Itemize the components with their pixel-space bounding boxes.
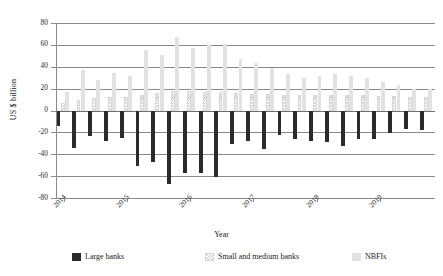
y-axis-tick-label: 80 bbox=[22, 19, 48, 27]
bar-large bbox=[246, 111, 250, 142]
bar-group bbox=[230, 23, 246, 198]
bar-nbfi bbox=[349, 76, 353, 111]
bar-nbfi bbox=[318, 76, 322, 111]
bar-nbfi bbox=[381, 82, 385, 110]
bar-nbfi bbox=[397, 85, 401, 110]
y-axis-tick-label: 60 bbox=[22, 40, 48, 48]
bar-nbfi bbox=[239, 59, 243, 110]
bar-group bbox=[372, 23, 388, 198]
bar-group bbox=[340, 23, 356, 198]
bar-nbfi bbox=[81, 70, 85, 110]
bar-large bbox=[214, 111, 218, 178]
bar-group bbox=[403, 23, 419, 198]
bar-large bbox=[372, 111, 376, 139]
bar-group bbox=[261, 23, 277, 198]
bar-large bbox=[341, 111, 345, 146]
bar-nbfi bbox=[223, 44, 227, 111]
bar-large bbox=[167, 111, 171, 184]
legend-item-nbfi[interactable]: NBFIs bbox=[352, 252, 386, 261]
bar-large bbox=[357, 111, 361, 139]
bar-nbfi bbox=[65, 92, 69, 111]
legend-swatch-nbfi-icon bbox=[352, 253, 361, 261]
chart-container: US $ billion 806040200-20-40-60-80 20142… bbox=[0, 0, 443, 276]
bar-large bbox=[278, 111, 282, 135]
y-axis-tick-label: 20 bbox=[22, 84, 48, 92]
chart-legend: Large banksSmall and medium banksNBFIs bbox=[0, 252, 443, 266]
bar-nbfi bbox=[412, 89, 416, 111]
bar-group bbox=[103, 23, 119, 198]
bar-group bbox=[167, 23, 183, 198]
legend-label: NBFIs bbox=[365, 252, 386, 261]
y-axis-tick-label: -40 bbox=[22, 150, 48, 158]
bar-large bbox=[230, 111, 234, 145]
bar-nbfi bbox=[254, 63, 258, 110]
x-axis-title: Year bbox=[0, 230, 443, 239]
bar-group bbox=[246, 23, 262, 198]
bar-large bbox=[104, 111, 108, 142]
bar-group bbox=[72, 23, 88, 198]
bar-large bbox=[293, 111, 297, 139]
bar-large bbox=[136, 111, 140, 167]
y-axis-tick-label: 40 bbox=[22, 62, 48, 70]
bar-large bbox=[88, 111, 92, 136]
bar-large bbox=[325, 111, 329, 143]
bar-large bbox=[199, 111, 203, 173]
bar-large bbox=[388, 111, 392, 134]
bar-nbfi bbox=[175, 37, 179, 110]
legend-item-smb[interactable]: Small and medium banks bbox=[205, 252, 299, 261]
bar-group bbox=[88, 23, 104, 198]
bar-group bbox=[277, 23, 293, 198]
bar-nbfi bbox=[365, 78, 369, 111]
bar-group bbox=[135, 23, 151, 198]
bar-nbfi bbox=[112, 73, 116, 110]
bar-group bbox=[309, 23, 325, 198]
legend-label: Large banks bbox=[85, 252, 124, 261]
y-axis-tick-label: -80 bbox=[22, 194, 48, 202]
bar-nbfi bbox=[160, 55, 164, 111]
x-axis-tick-label: 2014 bbox=[51, 193, 68, 210]
bar-groups bbox=[56, 23, 435, 198]
bar-group bbox=[182, 23, 198, 198]
bar-nbfi bbox=[207, 45, 211, 111]
bar-nbfi bbox=[428, 89, 432, 111]
legend-item-large[interactable]: Large banks bbox=[72, 252, 124, 261]
y-axis-title: US $ billion bbox=[9, 55, 18, 145]
bar-large bbox=[72, 111, 76, 148]
y-axis-tick-label: -20 bbox=[22, 128, 48, 136]
bar-group bbox=[324, 23, 340, 198]
legend-label: Small and medium banks bbox=[218, 252, 299, 261]
bar-nbfi bbox=[144, 50, 148, 110]
bar-large bbox=[262, 111, 266, 149]
bar-group bbox=[214, 23, 230, 198]
bar-nbfi bbox=[270, 68, 274, 111]
bar-nbfi bbox=[191, 48, 195, 110]
bar-large bbox=[404, 111, 408, 130]
bar-group bbox=[356, 23, 372, 198]
bar-group bbox=[198, 23, 214, 198]
bar-group bbox=[419, 23, 435, 198]
bar-nbfi bbox=[128, 76, 132, 111]
bar-large bbox=[309, 111, 313, 142]
legend-swatch-smb-icon bbox=[205, 253, 214, 261]
y-axis-tick-label: -60 bbox=[22, 172, 48, 180]
bar-nbfi bbox=[302, 78, 306, 111]
bar-large bbox=[57, 111, 61, 126]
bar-group bbox=[151, 23, 167, 198]
bar-group bbox=[56, 23, 72, 198]
bar-group bbox=[388, 23, 404, 198]
bar-nbfi bbox=[333, 74, 337, 110]
legend-swatch-large-icon bbox=[72, 253, 81, 261]
bar-large bbox=[420, 111, 424, 131]
bar-nbfi bbox=[286, 74, 290, 110]
bar-large bbox=[183, 111, 187, 173]
plot-area bbox=[56, 23, 435, 198]
bar-group bbox=[293, 23, 309, 198]
bar-group bbox=[119, 23, 135, 198]
y-axis-tick-label: 0 bbox=[22, 106, 48, 114]
bar-large bbox=[151, 111, 155, 162]
bar-large bbox=[120, 111, 124, 138]
bar-nbfi bbox=[96, 80, 100, 111]
